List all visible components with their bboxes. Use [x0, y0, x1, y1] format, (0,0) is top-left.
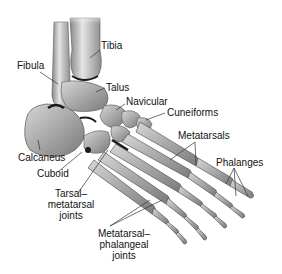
label-calcaneus: Calcaneus: [18, 152, 65, 163]
talus-bone: [61, 81, 108, 112]
label-fibula: Fibula: [17, 60, 44, 71]
label-cuneiforms: Cuneiforms: [167, 107, 218, 118]
label-metatarsal-phalangeal-joints: Metatarsal– phalangeal joints: [94, 228, 154, 261]
label-cuboid: Cuboid: [37, 168, 69, 179]
label-navicular: Navicular: [126, 96, 168, 107]
calcaneus-bone: [25, 104, 85, 156]
label-tarsal-metatarsal-joints: Tarsal– metatarsal joints: [46, 188, 96, 221]
label-tibia: Tibia: [101, 40, 122, 51]
label-phalanges: Phalanges: [216, 157, 263, 168]
label-talus: Talus: [106, 82, 129, 93]
label-metatarsals: Metatarsals: [178, 130, 230, 141]
phalanx-bones: [152, 158, 254, 244]
